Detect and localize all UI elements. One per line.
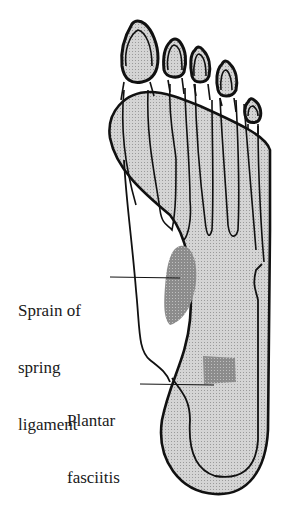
label-line: Sprain of <box>18 301 81 320</box>
toe-5 <box>245 99 261 123</box>
plantar-fasciitis-lesion <box>203 356 236 384</box>
label-line: Plantar <box>67 411 120 430</box>
label-line: fasciitis <box>67 468 120 487</box>
label-plantar-fasciitis: Plantar fasciitis <box>67 373 120 506</box>
toe-4 <box>217 61 237 96</box>
